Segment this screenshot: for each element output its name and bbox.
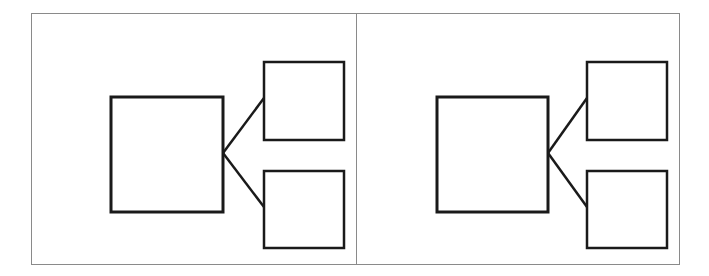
child-box xyxy=(587,171,667,248)
connector-line xyxy=(548,153,587,207)
parent-box xyxy=(111,97,223,212)
child-box xyxy=(587,62,667,140)
tree-diagram xyxy=(0,0,709,276)
parent-box xyxy=(437,97,548,212)
connector-line xyxy=(223,153,264,207)
connector-line xyxy=(548,98,587,153)
child-box xyxy=(264,62,344,140)
child-box xyxy=(264,171,344,248)
connector-line xyxy=(223,98,264,153)
panel-left xyxy=(111,62,344,248)
panel-right xyxy=(437,62,667,248)
